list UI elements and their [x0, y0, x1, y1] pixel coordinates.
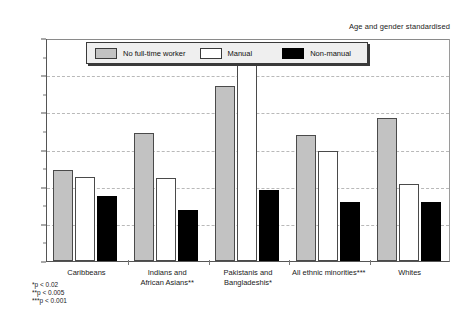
legend-label-non-manual: Non-manual [310, 49, 351, 58]
legend-item-manual: Manual [200, 48, 253, 59]
legend-swatch-icon-non-manual [282, 48, 304, 59]
plot-top-rule [47, 39, 449, 40]
bar-non-manual [421, 202, 441, 261]
bar-no-full-time-worker [296, 135, 316, 261]
y-axis-tick [41, 262, 46, 263]
footnote-list: *p < 0.02**p < 0.005***p < 0.001 [32, 281, 67, 306]
y-axis-minor-tick [43, 169, 46, 170]
bar-non-manual [97, 196, 117, 261]
legend-label-manual: Manual [228, 49, 253, 58]
y-axis-minor-tick [43, 94, 46, 95]
category-separator-tick [289, 260, 290, 265]
category-separator-tick [209, 260, 210, 265]
standardisation-note: Age and gender standardised [349, 22, 450, 31]
category-separator-tick [128, 260, 129, 265]
plot-inner [47, 39, 449, 261]
x-axis-category-label: Pakistanis andBangladeshis* [224, 268, 273, 287]
bar-no-full-time-worker [377, 118, 397, 261]
bar-no-full-time-worker [53, 170, 73, 261]
plot-area [46, 39, 450, 262]
y-axis-tick [41, 150, 46, 151]
bar-manual [318, 151, 338, 261]
bar-no-full-time-worker [215, 86, 235, 261]
bar-non-manual [178, 210, 198, 261]
bar-non-manual [259, 190, 279, 261]
bar-no-full-time-worker [134, 133, 154, 261]
bar-non-manual [340, 202, 360, 261]
bar-manual [75, 177, 95, 261]
bar-manual [237, 60, 257, 261]
chart-legend: No full-time worker Manual Non-manual [86, 42, 368, 64]
x-axis-category-label: Caribbeans [67, 268, 105, 278]
bar-manual [399, 184, 419, 261]
footnote: **p < 0.005 [32, 289, 67, 297]
legend-swatch-icon-manual [200, 48, 222, 59]
footnote: *p < 0.02 [32, 281, 67, 289]
y-axis-minor-tick [43, 57, 46, 58]
bar-manual [156, 178, 176, 261]
legend-item-no-full-time-worker: No full-time worker [95, 48, 186, 59]
footnote: ***p < 0.001 [32, 297, 67, 305]
x-axis-category-label: Whites [398, 268, 421, 278]
x-axis-category-label: All ethnic minorities*** [292, 268, 365, 278]
y-axis-minor-tick [43, 243, 46, 244]
legend-swatch-icon-no-full-time-worker [95, 48, 117, 59]
legend-item-non-manual: Non-manual [282, 48, 351, 59]
y-axis-minor-tick [43, 206, 46, 207]
y-axis-tick [41, 224, 46, 225]
y-axis-tick [41, 76, 46, 77]
y-axis-minor-tick [43, 131, 46, 132]
legend-label-no-full-time-worker: No full-time worker [123, 49, 186, 58]
y-axis-tick [41, 113, 46, 114]
x-axis-category-label: Indians andAfrican Asians** [141, 268, 194, 287]
chart-container: Age and gender standardised No full-time… [0, 0, 458, 318]
category-separator-tick [370, 260, 371, 265]
y-axis-tick [41, 39, 46, 40]
y-axis-tick [41, 187, 46, 188]
